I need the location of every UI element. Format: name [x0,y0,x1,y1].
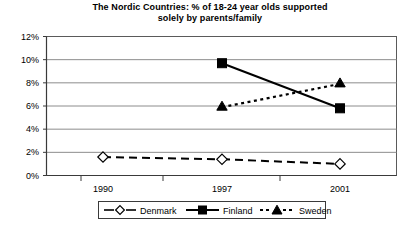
y-tick-label-10: 10% [21,55,39,65]
y-tick-label-2: 2% [26,147,39,157]
chart-container: The Nordic Countries: % of 18-24 year ol… [0,0,419,238]
y-tick-label-0: 0% [26,171,39,181]
finland-point-2001 [336,104,345,113]
x-tick-label-1990: 1990 [93,184,113,194]
legend-label-denmark: Denmark [140,206,177,216]
y-tick-label-4: 4% [26,124,39,134]
legend-label-finland: Finland [223,206,253,216]
y-tick-label-6: 6% [26,101,39,111]
y-tick-label-12: 12% [21,32,39,42]
chart-plot: 12% 10% 8% 6% 4% 2% 0% 1990 1997 2001 [0,0,419,238]
x-axis-ticks [81,176,280,182]
y-tick-label-8: 8% [26,78,39,88]
legend-label-sweden: Sweden [299,206,332,216]
finland-point-1997 [218,59,227,68]
square-filled-icon [199,206,207,214]
x-tick-label-1997: 1997 [212,184,232,194]
x-tick-label-2001: 2001 [330,184,350,194]
chart-legend: Denmark Finland Sweden [99,202,332,219]
